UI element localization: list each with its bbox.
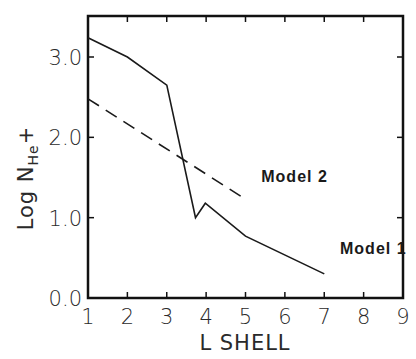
- data-series: [88, 38, 324, 274]
- series-annotations: Model 2Model 1: [261, 168, 406, 257]
- y-tick-label: 1.0: [49, 207, 82, 231]
- y-tick-label: 3.0: [49, 46, 82, 70]
- y-axis-title: Log NHe+: [14, 126, 41, 231]
- x-tick-label: 8: [357, 305, 370, 329]
- x-tick-label: 1: [81, 305, 94, 329]
- x-axis-title: L SHELL: [199, 331, 290, 355]
- y-tick-label: 0.0: [49, 287, 82, 311]
- x-tick-label: 4: [199, 305, 212, 329]
- y-tick-label: 2.0: [49, 126, 82, 150]
- model-1-label: Model 1: [340, 240, 407, 257]
- model-2-label: Model 2: [261, 168, 328, 185]
- model-2-line: [88, 99, 246, 199]
- y-axis-ticks: 0.01.02.03.0: [49, 46, 403, 311]
- line-chart: 123456789 0.01.02.03.0 Model 2Model 1 L …: [0, 0, 416, 359]
- x-axis-ticks: 123456789: [81, 16, 409, 329]
- x-tick-label: 6: [278, 305, 291, 329]
- x-tick-label: 9: [396, 305, 409, 329]
- x-tick-label: 3: [160, 305, 173, 329]
- model-1-line: [88, 38, 324, 274]
- x-tick-label: 2: [121, 305, 134, 329]
- x-tick-label: 7: [318, 305, 331, 329]
- x-tick-label: 5: [239, 305, 252, 329]
